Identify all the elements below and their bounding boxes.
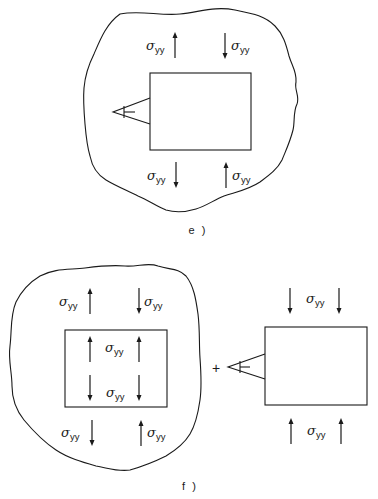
stress-label: σyy: [146, 38, 165, 55]
block-stress-arrow-up: [339, 418, 344, 444]
isolated-block-f: [265, 327, 367, 405]
inner-stress-arrow-down: [88, 375, 93, 401]
inner-stress-arrow-up: [88, 336, 93, 362]
stress-label: σyy: [61, 425, 80, 442]
stress-arrow-down: [223, 33, 228, 59]
stress-arrow-up: [173, 32, 178, 58]
panel-e: σyy σyy σyy σyy e ): [84, 9, 298, 236]
stress-label: σyy: [59, 294, 78, 311]
block-stress-arrow-down: [288, 288, 293, 314]
panel-caption-e: e ): [189, 224, 208, 236]
body-outline-e: [84, 9, 298, 212]
wedge-crack-e: [113, 98, 150, 124]
stress-label: σyy: [144, 294, 163, 311]
inner-stress-arrow-up: [137, 336, 142, 362]
stress-label: σyy: [232, 168, 251, 185]
stress-arrow-up: [139, 420, 144, 446]
stress-arrow-down: [90, 420, 95, 446]
stress-arrow-up: [88, 288, 93, 314]
stress-label: σyy: [231, 38, 250, 55]
inner-stress-arrow-down: [137, 375, 142, 401]
stress-label: σyy: [147, 168, 166, 185]
diagram-canvas: σyy σyy σyy σyy e ): [0, 0, 378, 499]
stress-label: σyy: [106, 385, 125, 402]
stress-label: σyy: [307, 423, 326, 440]
stress-arrow-down: [137, 288, 142, 314]
stress-label: σyy: [105, 340, 124, 357]
stress-label: σyy: [147, 425, 166, 442]
inclusion-block-e: [150, 73, 251, 150]
stress-label: σyy: [306, 291, 325, 308]
plus-operator: +: [212, 360, 220, 376]
panel-f: σyy σyy σyy σyy: [9, 264, 367, 492]
stress-arrow-down: [174, 162, 179, 188]
block-stress-arrow-down: [337, 288, 342, 314]
panel-caption-f: f ): [182, 480, 198, 492]
body-outline-f: [9, 264, 201, 470]
block-stress-arrow-up: [289, 418, 294, 444]
stress-arrow-up: [224, 162, 229, 188]
